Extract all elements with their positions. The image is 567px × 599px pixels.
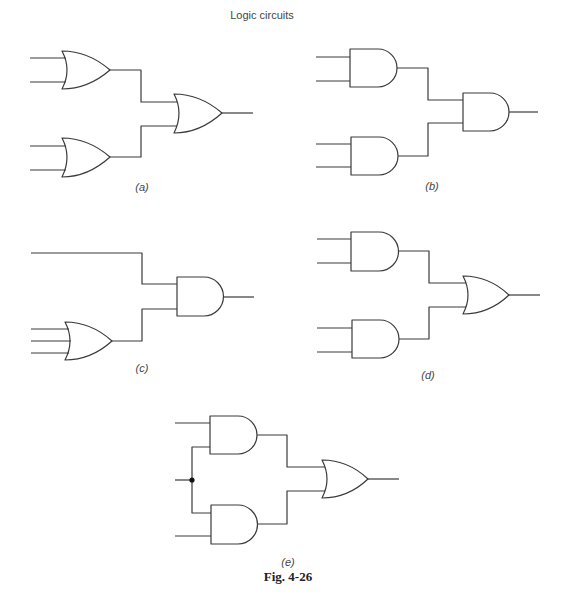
and-gate-icon [351, 137, 398, 175]
figure-caption: Fig. 4-26 [264, 569, 313, 584]
circuit-c: (c) [31, 253, 254, 374]
and-gate-icon [177, 277, 223, 316]
connection-wire [257, 435, 325, 467]
or-gate-icon [65, 322, 112, 360]
connection-wire [112, 309, 177, 341]
logic-circuits-figure: Logic circuits (a) [0, 0, 567, 599]
connection-wire [397, 68, 463, 100]
or-gate-icon [174, 94, 222, 133]
circuit-a: (a) [30, 51, 253, 193]
and-gate-icon [351, 232, 399, 271]
and-gate-icon [210, 416, 257, 454]
circuit-label-d: (d) [421, 369, 435, 381]
or-gate-icon [62, 138, 110, 177]
or-gate-icon [62, 51, 110, 89]
circuit-e: (e) [175, 416, 399, 568]
and-gate-icon [463, 93, 509, 131]
connection-wire [257, 491, 325, 524]
page-title: Logic circuits [230, 9, 294, 21]
circuit-b: (b) [316, 49, 538, 192]
shared-input-wire [192, 447, 211, 513]
input-wire [31, 253, 177, 284]
circuit-label-b: (b) [425, 180, 439, 192]
or-gate-icon [463, 276, 509, 314]
circuit-d: (d) [317, 232, 540, 381]
and-gate-icon [350, 49, 397, 87]
circuit-label-e: (e) [281, 556, 295, 568]
and-gate-icon [352, 320, 399, 358]
and-gate-icon [211, 505, 258, 544]
junction-dot-icon [189, 477, 194, 482]
connection-wire [398, 251, 466, 283]
circuit-label-a: (a) [135, 181, 149, 193]
connection-wire [110, 70, 177, 102]
connection-wire [110, 126, 177, 157]
connection-wire [398, 123, 463, 156]
connection-wire [399, 307, 466, 339]
or-gate-icon [322, 460, 368, 498]
circuit-label-c: (c) [136, 362, 149, 374]
